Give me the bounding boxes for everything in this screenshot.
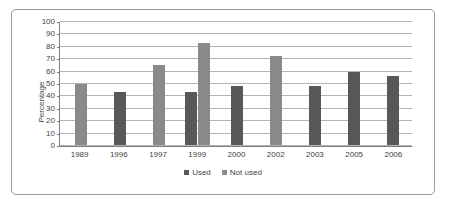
- y-tick-mark-40: [57, 96, 60, 97]
- y-tick-label-50: 50: [46, 80, 55, 88]
- category-label-2002: 2002: [256, 150, 295, 160]
- y-tick-label-70: 70: [46, 55, 55, 63]
- category-label-1997: 1997: [138, 150, 177, 160]
- chart-legend: UsedNot used: [12, 168, 434, 177]
- bar-1999-not-used[interactable]: [198, 43, 210, 145]
- y-axis-title: Percentage: [37, 82, 46, 123]
- gridline-0: 0: [60, 145, 412, 146]
- y-tick-mark-20: [57, 121, 60, 122]
- category-label-2005: 2005: [335, 150, 374, 160]
- bar-1996-used[interactable]: [114, 92, 126, 145]
- y-tick-label-0: 0: [51, 142, 55, 150]
- bar-group-1999: [178, 22, 217, 145]
- legend-entry-not-used[interactable]: Not used: [222, 168, 262, 177]
- y-tick-mark-70: [57, 59, 60, 60]
- bar-1989-not-used[interactable]: [75, 84, 87, 146]
- bar-group-2005: [334, 22, 373, 145]
- bar-1999-used[interactable]: [185, 92, 197, 145]
- y-tick-label-80: 80: [46, 43, 55, 51]
- bar-2002-not-used[interactable]: [270, 56, 282, 145]
- legend-label-not-used: Not used: [230, 168, 262, 177]
- y-tick-mark-100: [57, 22, 60, 23]
- y-tick-mark-50: [57, 84, 60, 85]
- category-axis: 198919961997199920002002200320052006: [60, 150, 413, 160]
- y-tick-mark-30: [57, 109, 60, 110]
- bar-group-2000: [217, 22, 256, 145]
- y-tick-label-20: 20: [46, 117, 55, 125]
- bar-group-2002: [256, 22, 295, 145]
- category-label-1989: 1989: [60, 150, 99, 160]
- y-tick-label-90: 90: [46, 30, 55, 38]
- bar-2003-used[interactable]: [309, 86, 321, 145]
- bar-group-1989: [61, 22, 100, 145]
- y-tick-mark-60: [57, 72, 60, 73]
- chart-figure: Percentage 0102030405060708090100 198919…: [11, 9, 435, 195]
- y-tick-label-100: 100: [42, 18, 55, 26]
- y-tick-mark-10: [57, 134, 60, 135]
- bar-2006-used[interactable]: [387, 76, 399, 145]
- legend-label-used: Used: [192, 168, 211, 177]
- category-label-2000: 2000: [217, 150, 256, 160]
- y-tick-mark-0: [57, 146, 60, 147]
- legend-swatch-used-icon: [184, 170, 189, 175]
- category-label-1996: 1996: [99, 150, 138, 160]
- bars-layer: [61, 22, 412, 145]
- category-label-1999: 1999: [178, 150, 217, 160]
- plot-region: 0102030405060708090100: [59, 22, 412, 147]
- y-tick-label-60: 60: [46, 68, 55, 76]
- legend-entry-used[interactable]: Used: [184, 168, 211, 177]
- bar-group-2003: [295, 22, 334, 145]
- bar-group-1997: [139, 22, 178, 145]
- bar-1997-not-used[interactable]: [153, 65, 165, 145]
- y-tick-label-40: 40: [46, 92, 55, 100]
- bar-2000-used[interactable]: [231, 86, 243, 145]
- category-label-2006: 2006: [374, 150, 413, 160]
- category-label-2003: 2003: [295, 150, 334, 160]
- bar-group-2006: [373, 22, 412, 145]
- legend-swatch-not-used-icon: [222, 170, 227, 175]
- y-tick-mark-80: [57, 47, 60, 48]
- y-tick-label-30: 30: [46, 105, 55, 113]
- y-tick-label-10: 10: [46, 130, 55, 138]
- plot-area: 0102030405060708090100: [59, 22, 412, 147]
- y-tick-mark-90: [57, 34, 60, 35]
- bar-group-1996: [100, 22, 139, 145]
- bar-2005-used[interactable]: [348, 72, 360, 145]
